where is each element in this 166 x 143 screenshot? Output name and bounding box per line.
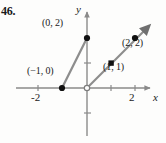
- x-tick-label-positive-two: 2: [129, 92, 135, 103]
- curve-left-segment: [62, 38, 87, 88]
- y-axis-label: y: [76, 4, 81, 15]
- point-label-0-2: (0, 2): [42, 18, 63, 28]
- x-axis-label: x: [153, 92, 158, 103]
- point-label-2-2: (2, 2): [122, 38, 143, 48]
- coordinate-plane-graphic: [0, 0, 166, 143]
- graph-figure: 46. y x: [0, 0, 166, 143]
- point-label-1-1: (1, 1): [103, 62, 124, 72]
- curve-right-ray: [87, 26, 149, 88]
- x-tick-label-negative-two: -2: [31, 92, 40, 103]
- point-label-neg1-0: (−1, 0): [27, 66, 54, 76]
- point-marker-0-2: [84, 35, 90, 41]
- point-marker-origin-open: [84, 85, 89, 90]
- point-marker-neg1-0: [59, 85, 65, 91]
